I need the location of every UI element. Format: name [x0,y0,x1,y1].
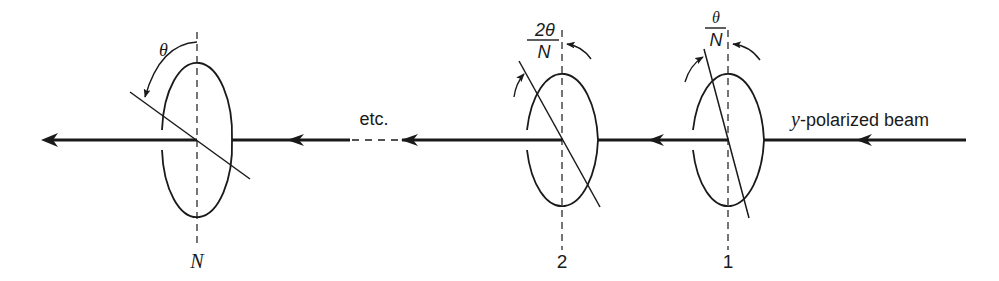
polarizer-N-rotation-arrow [145,42,197,97]
polarizer-1-angle-denominator: N [710,30,724,50]
beam-label-prefix: y [789,108,800,131]
polarizer-2-transmission-axis [519,61,600,207]
beam [41,133,966,147]
etc-label: etc. [359,109,388,129]
polarizer-1-rotation-arrow-right [733,44,760,60]
beam-label: y-polarized beam [789,108,929,131]
beam-label-suffix: -polarized beam [800,110,929,130]
polarizer-N-label: N [189,250,205,272]
polarizer-N-angle-label: θ [159,40,168,60]
polarizer-2-label: 2 [557,251,568,272]
polarizer-2-angle-numerator: 2θ [534,20,555,40]
polarizer-sequence-diagram: θ N 1 2θ N 2 θ N etc. y-polarized beam [0,0,999,281]
polarizer-1-angle-label: θ N [705,9,726,50]
polarizer-2-rotation-arrow-left [514,74,524,97]
polarizer-1-rotation-arrow-left [685,57,703,82]
polarizer-2-angle-label: 2θ N [527,20,559,62]
polarizer-1-label: 1 [723,251,734,272]
polarizer-1-angle-numerator: θ [712,9,720,26]
polarizer-2-rotation-arrow-right [567,44,591,59]
polarizer-2-angle-denominator: N [538,42,552,62]
